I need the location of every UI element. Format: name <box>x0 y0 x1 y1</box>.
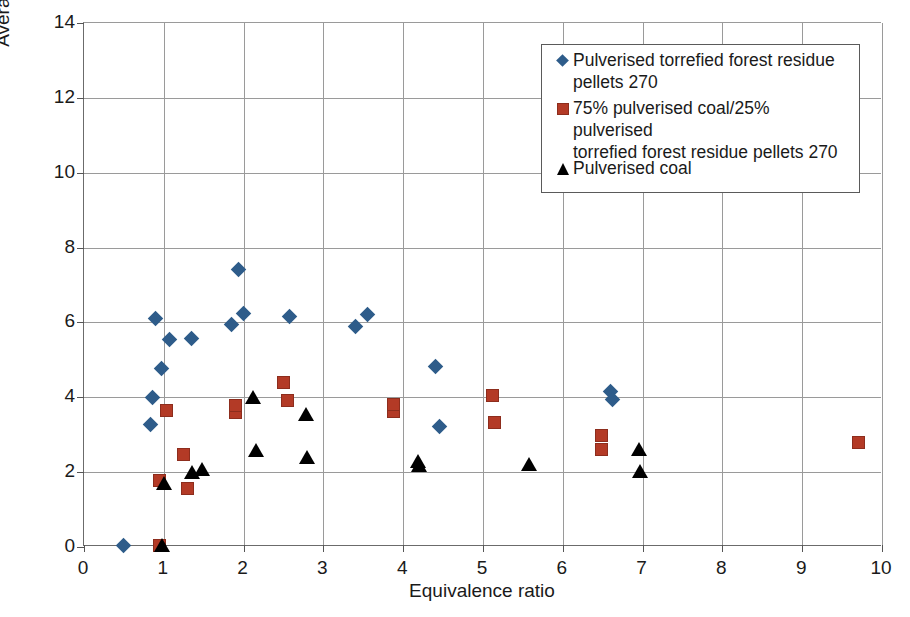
legend-item: 75% pulverised coal/25% pulverisedtorref… <box>555 97 851 163</box>
data-point-diamond <box>360 307 376 323</box>
x-axis-tick-label: 6 <box>542 558 582 577</box>
y-axis-tick <box>77 397 84 398</box>
data-point-triangle <box>298 407 314 421</box>
x-axis-tick-label: 0 <box>63 558 103 577</box>
y-axis-tick-label: 14 <box>35 12 75 31</box>
x-axis-tick-label: 2 <box>223 558 263 577</box>
x-axis-tick-label: 1 <box>143 558 183 577</box>
data-point-square <box>387 398 400 411</box>
gridline-vertical <box>483 23 484 545</box>
x-axis-tick-label: 5 <box>462 558 502 577</box>
data-point-square <box>486 389 499 402</box>
data-point-square <box>160 404 173 417</box>
x-axis-tick <box>323 545 324 552</box>
y-axis-tick-label: 0 <box>35 536 75 555</box>
x-axis-tick-label: 4 <box>382 558 422 577</box>
data-point-triangle <box>411 458 427 472</box>
gridline-vertical <box>403 23 404 545</box>
y-axis-tick <box>77 173 84 174</box>
data-point-diamond <box>142 416 158 432</box>
y-axis-tick-label: 12 <box>35 87 75 106</box>
data-point-square <box>229 399 242 412</box>
gridline-vertical <box>164 23 165 545</box>
legend-label-line-1: Pulverised torrefied forest residue <box>573 49 835 71</box>
legend-marker-triangle-icon <box>555 157 573 179</box>
data-point-diamond <box>427 359 443 375</box>
x-axis-tick <box>403 545 404 552</box>
x-axis-tick <box>722 545 723 552</box>
chart-legend: Pulverised torrefied forest residuepelle… <box>541 44 860 193</box>
x-axis-tick <box>244 545 245 552</box>
data-point-triangle <box>156 476 172 490</box>
x-axis-tick <box>802 545 803 552</box>
data-point-square <box>595 443 608 456</box>
y-axis-tick-label: 10 <box>35 162 75 181</box>
x-axis-tick-label: 10 <box>861 558 901 577</box>
x-axis-tick <box>563 545 564 552</box>
y-axis-tick <box>77 322 84 323</box>
y-axis-tick <box>77 248 84 249</box>
data-point-square <box>852 436 865 449</box>
data-point-square <box>277 376 290 389</box>
gridline-vertical <box>882 23 883 545</box>
data-point-diamond <box>148 311 164 327</box>
data-point-triangle <box>521 457 537 471</box>
x-axis-tick <box>84 545 85 552</box>
data-point-square <box>595 429 608 442</box>
data-point-diamond <box>145 390 161 406</box>
data-point-diamond <box>224 317 240 333</box>
legend-label-line-2: pellets 270 <box>573 71 835 93</box>
gridline-vertical <box>244 23 245 545</box>
data-point-diamond <box>154 360 170 376</box>
data-point-square <box>181 482 194 495</box>
data-point-square <box>281 394 294 407</box>
legend-marker-square-icon <box>555 97 573 119</box>
x-axis-tick-label: 3 <box>302 558 342 577</box>
data-point-triangle <box>299 450 315 464</box>
legend-item: Pulverised coal <box>555 157 851 179</box>
y-axis-tick <box>77 23 84 24</box>
x-axis-tick <box>882 545 883 552</box>
y-axis-tick <box>77 472 84 473</box>
x-axis-tick <box>483 545 484 552</box>
data-point-diamond <box>116 537 132 553</box>
legend-item: Pulverised torrefied forest residuepelle… <box>555 49 851 93</box>
x-axis-title: Equivalence ratio <box>83 580 881 602</box>
y-axis-tick-label: 6 <box>35 311 75 330</box>
data-point-triangle <box>631 442 647 456</box>
x-axis-tick-label: 9 <box>781 558 821 577</box>
data-point-diamond <box>184 330 200 346</box>
legend-marker-diamond-icon <box>555 49 573 71</box>
x-axis-tick-label: 7 <box>622 558 662 577</box>
y-axis-tick-label: 8 <box>35 237 75 256</box>
legend-label-line-1: 75% pulverised coal/25% pulverised <box>573 97 851 141</box>
data-point-triangle <box>154 538 170 552</box>
data-point-triangle <box>194 462 210 476</box>
data-point-diamond <box>236 305 252 321</box>
x-axis-tick-label: 8 <box>701 558 741 577</box>
data-point-triangle <box>632 464 648 478</box>
data-point-triangle <box>245 390 261 404</box>
legend-label: Pulverised coal <box>573 157 692 179</box>
x-axis-tick <box>643 545 644 552</box>
legend-label: 75% pulverised coal/25% pulverisedtorref… <box>573 97 851 163</box>
data-point-diamond <box>431 419 447 435</box>
data-point-triangle <box>248 443 264 457</box>
y-axis-title: Average velocity (m/s) <box>0 0 14 118</box>
data-point-square <box>488 416 501 429</box>
chart-figure: Average velocity (m/s) Equivalence ratio… <box>0 0 910 617</box>
legend-label: Pulverised torrefied forest residuepelle… <box>573 49 835 93</box>
y-axis-tick <box>77 98 84 99</box>
y-axis-tick <box>77 547 84 548</box>
data-point-square <box>177 448 190 461</box>
gridline-vertical <box>323 23 324 545</box>
y-axis-tick-label: 2 <box>35 461 75 480</box>
y-axis-tick-label: 4 <box>35 386 75 405</box>
